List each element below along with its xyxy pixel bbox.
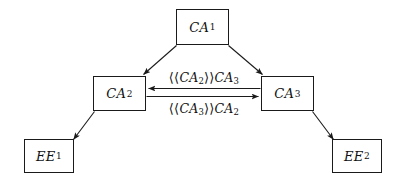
node-ee1-base: EE (36, 149, 56, 164)
node-ee1[interactable]: EE1 (24, 139, 74, 173)
node-ee1-subscript: 1 (56, 151, 63, 161)
close-bracket: ⟩⟩ (204, 70, 215, 85)
inner-base: CA (179, 101, 198, 116)
node-ca1-subscript: 1 (209, 22, 216, 32)
edge-label-cross-cert-ca2-ca3: ⟨⟨CA2⟩⟩CA3 (152, 70, 256, 86)
node-ca2-subscript: 2 (126, 89, 133, 99)
node-ca3-base: CA (274, 86, 294, 101)
node-ca3[interactable]: CA3 (261, 76, 314, 111)
node-ca3-subscript: 3 (294, 89, 301, 99)
certificate-authority-diagram: CA1 CA2 CA3 EE1 EE2 ⟨⟨CA2⟩⟩CA3 ⟨⟨CA3⟩⟩CA… (0, 0, 403, 184)
node-ca2-base: CA (106, 86, 126, 101)
close-bracket: ⟩⟩ (204, 101, 215, 116)
node-ca1-base: CA (189, 20, 209, 35)
edge-ca2-to-ee1 (74, 112, 95, 140)
open-bracket: ⟨⟨ (169, 70, 180, 85)
node-ca2[interactable]: CA2 (93, 76, 146, 111)
node-ca1[interactable]: CA1 (176, 9, 229, 45)
node-ee2-base: EE (344, 149, 364, 164)
outer-base: CA (215, 70, 234, 85)
inner-base: CA (179, 70, 198, 85)
outer-subscript: 3 (234, 76, 240, 86)
outer-base: CA (215, 101, 234, 116)
outer-subscript: 2 (234, 107, 240, 117)
edge-label-cross-cert-ca3-ca2: ⟨⟨CA3⟩⟩CA2 (152, 101, 256, 117)
open-bracket: ⟨⟨ (169, 101, 180, 116)
node-ee2[interactable]: EE2 (332, 139, 382, 173)
edge-ca3-to-ee2 (313, 112, 334, 140)
node-ee2-subscript: 2 (364, 151, 371, 161)
